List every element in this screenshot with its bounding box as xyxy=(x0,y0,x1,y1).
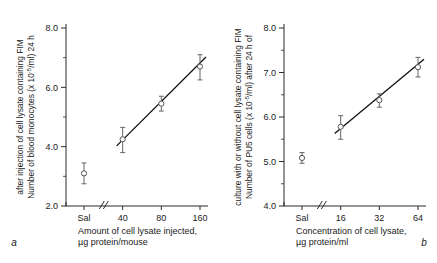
data-point-group xyxy=(415,57,420,77)
y-tick-label: 2.0 xyxy=(45,201,58,211)
y-tick-label: 4.0 xyxy=(263,201,276,211)
x-tick-label: Sal xyxy=(295,213,308,223)
x-tick-label: 64 xyxy=(413,213,423,223)
panel-a: 2.04.06.08.0Sal4080160Number of blood mo… xyxy=(0,0,219,263)
y-axis-title-line2: after injection of cell lysate containin… xyxy=(15,39,25,195)
y-axis-title: Number of PU5 cells (x 10-5/ml) after 24… xyxy=(233,28,254,205)
data-point-group xyxy=(197,55,202,80)
y-tick-label: 5.0 xyxy=(263,157,276,167)
data-point-marker xyxy=(159,101,164,106)
y-axis-title-line1: Number of blood monocytes (x 10-5/ml) 24… xyxy=(26,35,36,199)
y-axis-title-exponent: -5 xyxy=(26,67,32,73)
figure-container: 2.04.06.08.0Sal4080160Number of blood mo… xyxy=(0,0,437,263)
y-axis-title-line1: Number of PU5 cells (x 10-5/ml) after 24… xyxy=(244,34,254,199)
data-point-group xyxy=(338,116,343,140)
data-point-marker xyxy=(338,124,343,129)
y-tick-label: 8.0 xyxy=(45,23,58,33)
x-axis-title-line2: µg protein/mouse xyxy=(78,237,148,247)
y-axis-title-line2: culture with or without cell lysate cont… xyxy=(233,28,243,205)
x-axis-title-line2: µg protein/ml xyxy=(296,237,348,247)
y-tick-label: 7.0 xyxy=(263,68,276,78)
data-point-group xyxy=(159,96,164,111)
y-tick-label: 4.0 xyxy=(45,142,58,152)
data-point-marker xyxy=(197,64,202,69)
chart-svg: 4.05.06.07.08.0Sal163264Number of PU5 ce… xyxy=(218,0,437,263)
data-point-group xyxy=(377,94,382,107)
x-tick-label: 80 xyxy=(156,213,166,223)
data-point-group xyxy=(299,153,304,164)
data-point-marker xyxy=(377,97,382,102)
panel-letter: a xyxy=(11,237,17,248)
panel-letter: b xyxy=(421,237,427,248)
x-tick-label: 16 xyxy=(336,213,346,223)
x-tick-label: 40 xyxy=(118,213,128,223)
y-tick-label: 6.0 xyxy=(263,112,276,122)
y-tick-label: 6.0 xyxy=(45,83,58,93)
x-tick-label: 32 xyxy=(374,213,384,223)
data-point-marker xyxy=(415,65,420,70)
chart-svg: 2.04.06.08.0Sal4080160Number of blood mo… xyxy=(0,0,219,263)
x-tick-label: 160 xyxy=(192,213,207,223)
data-point-group xyxy=(120,127,125,152)
panel-b: 4.05.06.07.08.0Sal163264Number of PU5 ce… xyxy=(218,0,437,263)
data-point-marker xyxy=(299,155,304,160)
data-point-group xyxy=(81,163,86,184)
data-point-marker xyxy=(120,137,125,142)
data-point-marker xyxy=(81,171,86,176)
x-tick-label: Sal xyxy=(77,213,90,223)
y-axis-title: Number of blood monocytes (x 10-5/ml) 24… xyxy=(15,35,36,199)
y-tick-label: 8.0 xyxy=(263,23,276,33)
x-axis-title-line1: Amount of cell lysate injected, xyxy=(78,226,197,236)
y-axis-title-exponent: -5 xyxy=(244,95,250,101)
x-axis-title-line1: Concentration of cell lysate, xyxy=(296,226,407,236)
